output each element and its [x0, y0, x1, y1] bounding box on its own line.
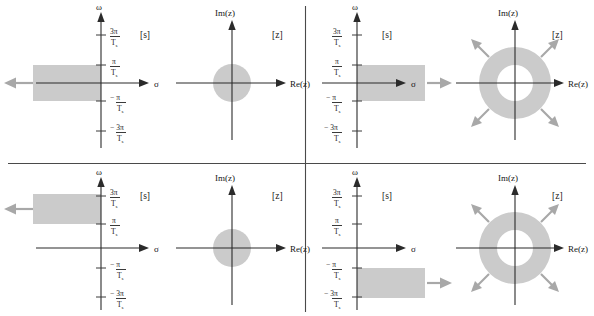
s-region-strip — [33, 194, 101, 224]
svg-text:3π: 3π — [333, 27, 341, 36]
z-plane-tag: [z] — [272, 191, 283, 201]
rez-axis-label: Re(z) — [568, 244, 588, 254]
imz-axis-label: Im(z) — [498, 8, 518, 18]
rez-axis-label: Re(z) — [290, 79, 310, 89]
sigma-axis-label: σ — [154, 79, 159, 89]
s-plane-tag: [s] — [382, 30, 392, 40]
imz-axis-label: Im(z) — [215, 173, 235, 183]
svg-text:−3π: −3π — [324, 123, 338, 132]
omega-axis-label: ω — [352, 2, 358, 12]
omega-axis-label: ω — [96, 2, 102, 12]
s-plane-tag: [s] — [382, 191, 392, 201]
imz-axis-label: Im(z) — [498, 173, 518, 183]
svg-text:3π: 3π — [110, 27, 118, 36]
quadrant-figure: σ ω 3π Ts π Ts −π — [0, 0, 594, 316]
rez-axis-label: Re(z) — [290, 244, 310, 254]
imz-axis-label: Im(z) — [215, 8, 235, 18]
svg-text:−3π: −3π — [324, 289, 338, 298]
svg-text:π: π — [112, 216, 116, 225]
z-plane-tag: [z] — [552, 30, 563, 40]
z-plane-tag: [z] — [272, 30, 283, 40]
svg-text:3π: 3π — [110, 188, 118, 197]
svg-text:π: π — [335, 216, 339, 225]
svg-text:π: π — [112, 57, 116, 66]
s-plane-tag: [s] — [140, 30, 150, 40]
sigma-axis-label: σ — [411, 244, 416, 254]
svg-text:−3π: −3π — [110, 289, 124, 298]
omega-axis-label: ω — [352, 167, 358, 177]
s-plane-tag: [s] — [140, 191, 150, 201]
rez-axis-label: Re(z) — [568, 79, 588, 89]
svg-text:3π: 3π — [333, 188, 341, 197]
z-plane-tag: [z] — [552, 191, 563, 201]
omega-axis-label: ω — [96, 167, 102, 177]
svg-text:π: π — [335, 57, 339, 66]
sigma-axis-label: σ — [411, 79, 416, 89]
figure-canvas: σ ω 3π Ts π Ts −π — [0, 0, 594, 316]
s-region-strip — [357, 268, 425, 298]
svg-text:−3π: −3π — [110, 123, 124, 132]
sigma-axis-label: σ — [154, 244, 159, 254]
